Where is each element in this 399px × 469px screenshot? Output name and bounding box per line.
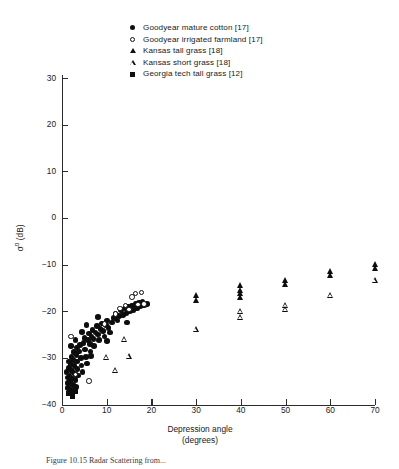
y-tick-mark <box>62 171 68 172</box>
data-point <box>84 322 90 328</box>
data-point <box>73 377 79 383</box>
legend: Goodyear mature cotton [17]Goodyear irri… <box>126 22 263 80</box>
x-tick-label: 30 <box>181 406 211 415</box>
x-axis-title-line2: (degrees) <box>130 435 270 446</box>
legend-item-label: Goodyear mature cotton [17] <box>143 22 249 34</box>
x-tick-mark <box>107 399 108 405</box>
x-tick-label: 50 <box>271 406 301 415</box>
data-point <box>141 301 147 307</box>
y-tick-label: 0 <box>22 213 56 222</box>
data-point <box>126 307 132 313</box>
data-point <box>121 336 127 342</box>
legend-item: Kansas tall grass [18] <box>126 45 263 57</box>
x-tick-label: 0 <box>47 406 77 415</box>
x-tick-mark <box>196 399 197 405</box>
y-axis-title-superscript: o <box>13 243 20 247</box>
filled-square-icon <box>126 68 139 80</box>
data-point <box>126 353 132 359</box>
data-point <box>86 378 92 384</box>
x-tick-label: 10 <box>92 406 122 415</box>
filled-triangle-icon <box>126 45 139 57</box>
y-tick-label: −20 <box>22 307 56 316</box>
data-point <box>73 389 78 394</box>
x-tick-mark <box>62 399 63 405</box>
x-tick-mark <box>286 399 287 405</box>
y-tick-mark <box>62 265 68 266</box>
x-tick-label: 70 <box>360 406 390 415</box>
data-point <box>133 291 139 297</box>
data-point <box>117 306 123 312</box>
figure-caption: Figure 10.15 Radar Scattering from... <box>46 455 366 466</box>
data-point <box>139 290 145 296</box>
data-point <box>282 281 288 287</box>
data-point <box>70 393 75 398</box>
data-point <box>73 337 79 343</box>
data-point <box>68 334 74 340</box>
y-tick-label: −30 <box>22 353 56 362</box>
y-tick-mark <box>62 125 68 126</box>
legend-item: Kansas short grass [18] <box>126 57 263 69</box>
open-triangle-glyph <box>130 60 136 65</box>
data-point <box>282 306 288 312</box>
y-axis-title-unit: (dB) <box>15 224 25 242</box>
data-point <box>91 343 97 349</box>
filled-square-glyph <box>130 72 135 77</box>
data-point <box>193 297 199 303</box>
data-point <box>237 314 243 320</box>
legend-item: Goodyear irrigated farmland [17] <box>126 34 263 46</box>
filled-triangle-glyph <box>130 48 136 53</box>
x-tick-mark <box>375 399 376 405</box>
data-point <box>104 338 110 344</box>
data-point <box>88 353 94 359</box>
open-circle-icon <box>126 34 139 46</box>
x-axis-title: Depression angle (degrees) <box>130 424 270 446</box>
y-tick-mark <box>62 218 68 219</box>
data-point <box>372 265 378 271</box>
radar-backscatter-figure: Goodyear mature cotton [17]Goodyear irri… <box>0 0 399 469</box>
data-point <box>327 272 333 278</box>
data-point <box>79 329 85 335</box>
data-point <box>68 343 74 349</box>
y-tick-mark <box>62 78 68 79</box>
legend-item: Goodyear mature cotton [17] <box>126 22 263 34</box>
data-point <box>80 369 86 375</box>
data-point <box>91 336 97 342</box>
data-point <box>95 314 101 320</box>
y-tick-label: 10 <box>22 167 56 176</box>
x-tick-label: 20 <box>136 406 166 415</box>
y-tick-label: −10 <box>22 260 56 269</box>
data-point <box>193 326 199 332</box>
open-triangle-icon <box>126 57 139 69</box>
data-point <box>103 354 109 360</box>
data-point <box>327 292 333 298</box>
x-tick-mark <box>241 399 242 405</box>
data-point <box>112 367 118 373</box>
x-tick-mark <box>330 399 331 405</box>
data-point <box>124 320 130 326</box>
legend-item: Georgia tech tall grass [12] <box>126 68 263 80</box>
y-tick-label: 20 <box>22 120 56 129</box>
data-point <box>237 294 243 300</box>
data-point <box>76 349 82 355</box>
x-axis-title-line1: Depression angle <box>130 424 270 435</box>
filled-circle-glyph <box>130 25 135 30</box>
x-tick-mark <box>151 399 152 405</box>
filled-circle-icon <box>126 22 139 34</box>
legend-item-label: Kansas tall grass [18] <box>143 45 223 57</box>
y-axis-title: σo (dB) <box>13 203 25 273</box>
open-circle-glyph <box>130 37 135 42</box>
data-point <box>372 277 378 283</box>
legend-item-label: Georgia tech tall grass [12] <box>143 68 243 80</box>
x-tick-label: 60 <box>315 406 345 415</box>
data-point <box>107 330 113 336</box>
y-axis-title-symbol: σ <box>15 246 25 251</box>
legend-item-label: Goodyear irrigated farmland [17] <box>143 34 263 46</box>
x-tick-label: 40 <box>226 406 256 415</box>
data-point <box>96 337 102 343</box>
data-point <box>84 361 90 367</box>
y-tick-label: 30 <box>22 74 56 83</box>
y-tick-mark <box>62 311 68 312</box>
legend-item-label: Kansas short grass [18] <box>143 57 230 69</box>
